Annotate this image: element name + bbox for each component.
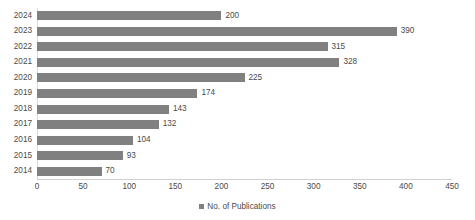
bar-row: 2019174: [37, 86, 452, 102]
bar: [37, 58, 339, 67]
bar-row: 201470: [37, 163, 452, 179]
bar: [37, 151, 123, 160]
bar: [37, 105, 169, 114]
bar-value-label: 132: [163, 120, 177, 128]
category-label: 2020: [14, 74, 32, 82]
plot-area: 2024200202339020223152021328202022520191…: [37, 8, 452, 179]
bar-row: 2021328: [37, 55, 452, 71]
x-axis-tick: 200: [215, 182, 229, 191]
bar: [37, 120, 159, 129]
bar-chart: 2024200202339020223152021328202022520191…: [0, 0, 475, 220]
bar-row: 2022315: [37, 39, 452, 55]
bar-row: 201593: [37, 148, 452, 164]
category-label: 2014: [14, 167, 32, 175]
bar: [37, 136, 133, 145]
bar-row: 2016104: [37, 132, 452, 148]
category-label: 2015: [14, 152, 32, 160]
legend-label: No. of Publications: [207, 202, 275, 211]
x-axis-tick: 400: [399, 182, 413, 191]
category-label: 2023: [14, 27, 32, 35]
x-axis-tick: 450: [445, 182, 459, 191]
category-label: 2016: [14, 136, 32, 144]
x-axis-tick: 0: [35, 182, 40, 191]
category-label: 2017: [14, 120, 32, 128]
x-axis-tick: 50: [79, 182, 88, 191]
bar-value-label: 390: [401, 27, 415, 35]
bar: [37, 167, 102, 176]
bar-value-label: 93: [127, 152, 136, 160]
x-axis-tick: 100: [122, 182, 136, 191]
bar-row: 2018143: [37, 101, 452, 117]
x-axis-tick: 150: [168, 182, 182, 191]
bar-value-label: 70: [106, 167, 115, 175]
category-label: 2021: [14, 58, 32, 66]
bar-value-label: 200: [225, 12, 239, 20]
bar-value-label: 143: [173, 105, 187, 113]
category-label: 2022: [14, 43, 32, 51]
category-label: 2018: [14, 105, 32, 113]
bar-row: 2023390: [37, 24, 452, 40]
bar-value-label: 315: [332, 43, 346, 51]
bar-row: 2020225: [37, 70, 452, 86]
x-axis-line: [37, 179, 452, 180]
legend-swatch-icon: [199, 204, 204, 209]
bar: [37, 73, 245, 82]
bar: [37, 42, 328, 51]
bar-row: 2017132: [37, 117, 452, 133]
category-label: 2024: [14, 12, 32, 20]
bar-row: 2024200: [37, 8, 452, 24]
chart-legend: No. of Publications: [0, 202, 475, 211]
bar: [37, 11, 221, 20]
bar-value-label: 104: [137, 136, 151, 144]
x-axis-tick: 300: [307, 182, 321, 191]
bar-value-label: 174: [201, 89, 215, 97]
bar: [37, 89, 197, 98]
bar-value-label: 328: [343, 58, 357, 66]
bar-value-label: 225: [249, 74, 263, 82]
x-axis-tick: 350: [353, 182, 367, 191]
x-axis-tick: 250: [261, 182, 275, 191]
bar: [37, 27, 397, 36]
category-label: 2019: [14, 89, 32, 97]
x-axis-tick-labels: 050100150200250300350400450: [37, 182, 452, 196]
